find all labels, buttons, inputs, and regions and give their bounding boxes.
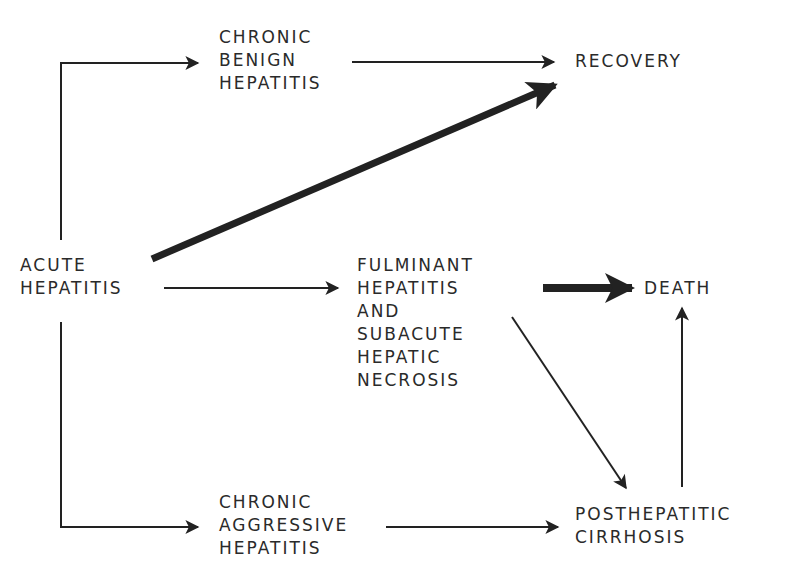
- edge-fulminant-to-cirrhosis: [512, 317, 626, 488]
- node-death: DEATH: [644, 277, 711, 300]
- node-fulminant-hepatitis: FULMINANT HEPATITIS AND SUBACUTE HEPATIC…: [357, 254, 474, 392]
- node-label-line: SUBACUTE: [357, 323, 474, 346]
- node-label-line: HEPATITIS: [219, 72, 322, 95]
- node-label-line: HEPATITIS: [20, 277, 123, 300]
- edge-acute-to-chronic-benign: [61, 63, 198, 240]
- node-label-line: ACUTE: [20, 254, 123, 277]
- edge-acute-to-chronic-aggressive: [61, 322, 198, 527]
- node-label-line: HEPATITIS: [357, 277, 474, 300]
- node-label-line: NECROSIS: [357, 369, 474, 392]
- edge-acute-to-recovery-thick: [152, 85, 555, 259]
- node-chronic-benign-hepatitis: CHRONIC BENIGN HEPATITIS: [219, 26, 322, 95]
- node-label-line: HEPATIC: [357, 346, 474, 369]
- node-label-line: RECOVERY: [575, 50, 682, 73]
- hepatitis-outcomes-diagram: ACUTE HEPATITIS CHRONIC BENIGN HEPATITIS…: [0, 0, 790, 571]
- node-label-line: DEATH: [644, 277, 711, 300]
- node-label-line: CIRRHOSIS: [575, 526, 731, 549]
- node-label-line: AND: [357, 300, 474, 323]
- node-label-line: AGGRESSIVE: [219, 514, 348, 537]
- node-recovery: RECOVERY: [575, 50, 682, 73]
- node-chronic-aggressive-hepatitis: CHRONIC AGGRESSIVE HEPATITIS: [219, 491, 348, 560]
- node-label-line: FULMINANT: [357, 254, 474, 277]
- node-label-line: POSTHEPATITIC: [575, 503, 731, 526]
- node-posthepatitic-cirrhosis: POSTHEPATITIC CIRRHOSIS: [575, 503, 731, 549]
- node-label-line: CHRONIC: [219, 26, 322, 49]
- node-label-line: BENIGN: [219, 49, 322, 72]
- node-label-line: CHRONIC: [219, 491, 348, 514]
- node-label-line: HEPATITIS: [219, 537, 348, 560]
- node-acute-hepatitis: ACUTE HEPATITIS: [20, 254, 123, 300]
